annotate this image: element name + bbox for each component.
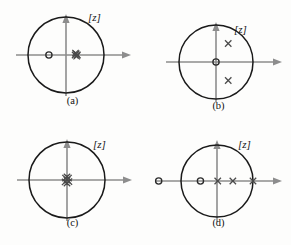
real-axis-arrow bbox=[123, 176, 132, 183]
panel-a-caption: (a) bbox=[0, 95, 145, 106]
panel-c-caption: (c) bbox=[0, 217, 145, 228]
pole-marker bbox=[225, 40, 231, 46]
panel-d-caption: (d) bbox=[146, 217, 291, 228]
real-axis-arrow bbox=[122, 51, 131, 58]
panel-a: [z] (a) bbox=[0, 0, 145, 122]
imaginary-axis-arrow bbox=[62, 14, 69, 23]
panel-b-plane-label: [z] bbox=[234, 23, 247, 35]
panel-b: [z] (b) bbox=[146, 0, 291, 122]
panel-d: [z] (d) bbox=[146, 123, 291, 245]
imaginary-axis-arrow bbox=[212, 22, 219, 31]
imaginary-axis-arrow bbox=[63, 139, 70, 148]
panel-c-plane-label: [z] bbox=[93, 138, 106, 150]
real-axis-arrow bbox=[273, 58, 282, 65]
panel-c: [z] (c) bbox=[0, 123, 145, 245]
real-axis-arrow bbox=[273, 177, 282, 184]
pole-zero-figure: [z] (a) [z] (b) [z] (c) [z] (d) bbox=[0, 0, 291, 245]
panel-d-plane-label: [z] bbox=[238, 138, 251, 150]
pole-marker bbox=[225, 77, 231, 83]
panel-b-caption: (b) bbox=[146, 100, 291, 111]
panel-a-plane-label: [z] bbox=[88, 11, 101, 23]
